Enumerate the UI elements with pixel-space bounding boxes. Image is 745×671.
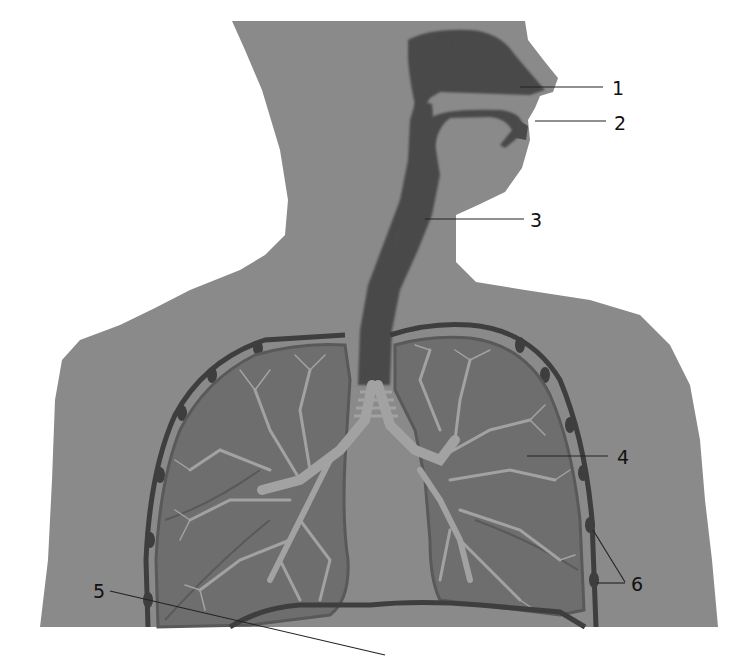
- label-6: 6: [631, 573, 643, 595]
- label-1: 1: [612, 77, 624, 99]
- respiratory-system-diagram: 1 2 3 4 5 6: [0, 0, 745, 671]
- label-3: 3: [530, 209, 542, 231]
- label-5: 5: [93, 580, 105, 602]
- label-2: 2: [614, 112, 626, 134]
- label-4: 4: [617, 446, 629, 468]
